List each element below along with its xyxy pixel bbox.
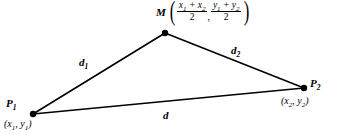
vertex-dot-p1 xyxy=(30,111,36,117)
vertex-coordinates-p2: (x2, y2) xyxy=(281,96,309,106)
vertex-dot-m xyxy=(162,30,168,36)
vertex-label-p1: P1 xyxy=(6,98,16,109)
segment-label-d: d xyxy=(163,110,169,121)
midpoint-y-fraction: y1 + y2 2 xyxy=(211,1,241,23)
midpoint-y-denominator: 2 xyxy=(224,12,229,22)
vertex-coordinates-p1: (x1, y1) xyxy=(4,119,32,129)
vertex-dot-p2 xyxy=(301,85,307,91)
vertex-label-p2: P2 xyxy=(310,78,320,89)
segment-label-d1: d1 xyxy=(79,57,88,68)
segment-label-d2: d2 xyxy=(231,45,240,56)
midpoint-x-numerator: x1 + x2 xyxy=(177,1,207,11)
midpoint-x-denominator: 2 xyxy=(190,12,195,22)
segment-d2-line xyxy=(165,33,304,88)
midpoint-label: M ( x1 + x2 2 , y1 + y2 2 ) xyxy=(156,1,251,23)
paren-open: ( xyxy=(169,1,175,22)
paren-close: ) xyxy=(243,1,249,22)
midpoint-y-numerator: y1 + y2 xyxy=(211,1,241,11)
midpoint-comma: , xyxy=(207,11,210,23)
midpoint-letter: M xyxy=(156,6,166,18)
geometry-figure: M ( x1 + x2 2 , y1 + y2 2 ) P1 (x1, y1) … xyxy=(0,0,338,135)
segment-d1-line xyxy=(33,33,165,114)
midpoint-x-fraction: x1 + x2 2 xyxy=(177,1,207,23)
